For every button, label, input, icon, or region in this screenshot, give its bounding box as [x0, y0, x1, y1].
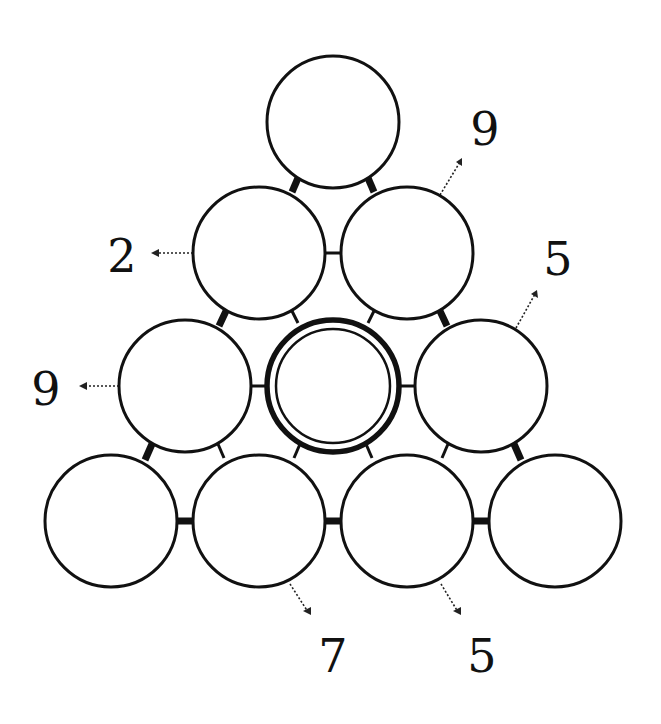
circle-r1c1[interactable]	[341, 187, 473, 319]
connector-thin	[292, 311, 298, 323]
connector-thin	[366, 444, 372, 458]
circle-r0c0[interactable]	[267, 56, 399, 188]
connector-thick	[292, 178, 298, 192]
circle-r2c0[interactable]	[119, 320, 251, 452]
circle-r1c0[interactable]	[193, 187, 325, 319]
arrowhead-icon	[453, 607, 461, 615]
arrow-to-clue	[440, 162, 460, 195]
circle-r2c2[interactable]	[415, 320, 547, 452]
arrowhead-icon	[456, 158, 462, 166]
circle-r3c3[interactable]	[489, 455, 621, 587]
arrow-to-clue	[441, 584, 458, 612]
circles	[45, 56, 621, 587]
arrowhead-icon	[79, 382, 87, 390]
clue-label: 9	[470, 102, 499, 156]
pyramid-board: 2 9 9 5 7 5	[0, 0, 661, 724]
clue-label: 7	[318, 629, 347, 683]
arrowhead-icon	[531, 290, 538, 298]
connector-thin	[294, 444, 300, 458]
arrowhead-icon	[151, 249, 159, 257]
circle-r3c0[interactable]	[45, 455, 177, 587]
circle-r2c1-highlighted[interactable]	[267, 320, 399, 452]
connector-thin	[442, 444, 448, 458]
connector-thick	[514, 444, 521, 460]
connector-thick	[368, 178, 374, 192]
connector-thick	[145, 444, 152, 460]
connector-thin	[368, 311, 374, 323]
connector-thick	[219, 311, 226, 326]
clue-label: 5	[467, 629, 496, 683]
connector-thick	[440, 311, 447, 326]
circle-r3c2[interactable]	[341, 455, 473, 587]
clue-label: 9	[31, 362, 60, 416]
clue-label: 5	[543, 232, 572, 286]
connector-thin	[218, 444, 224, 458]
circle-r3c1[interactable]	[193, 455, 325, 587]
arrow-to-clue	[290, 584, 308, 612]
arrowhead-icon	[303, 607, 311, 615]
arrow-to-clue	[516, 294, 535, 328]
clue-label: 2	[107, 229, 136, 283]
